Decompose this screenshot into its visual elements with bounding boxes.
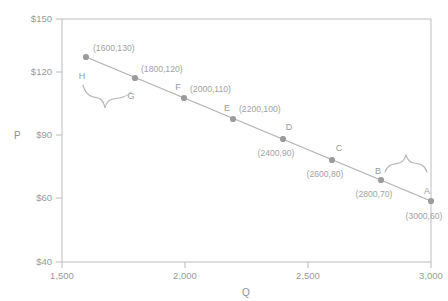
y-ticklabel-150: $150	[31, 13, 52, 24]
data-point-E[interactable]	[230, 116, 236, 122]
data-point-D[interactable]	[280, 136, 286, 142]
point-coord-D: (2400,90)	[258, 148, 295, 158]
scatter-chart: $150 $120 $90 $60 $40 1,500 2,000 2,500 …	[0, 0, 448, 301]
point-coord-E: (2200,100)	[239, 104, 281, 114]
y-ticklabel-60: $60	[36, 192, 52, 203]
point-coord-C: (2600,80)	[307, 169, 344, 179]
x-axis-title: Q	[242, 287, 250, 298]
data-point-G[interactable]	[132, 75, 138, 81]
point-label-B: B	[375, 166, 381, 176]
point-label-H: H	[79, 71, 86, 81]
data-point-H[interactable]	[83, 54, 89, 60]
x-ticklabel-3000: 3,000	[419, 270, 443, 281]
y-ticklabel-90: $90	[36, 129, 52, 140]
x-ticklabel-2500: 2,500	[296, 270, 320, 281]
data-point-A[interactable]	[428, 198, 434, 204]
point-coord-G: (1800,120)	[141, 64, 183, 74]
y-ticklabel-120: $120	[31, 66, 52, 77]
x-ticklabel-1500: 1,500	[50, 270, 74, 281]
point-coord-A: (3000,60)	[406, 211, 443, 221]
data-point-F[interactable]	[181, 95, 187, 101]
point-label-F: F	[175, 82, 181, 92]
point-label-A: A	[424, 186, 430, 196]
chart-container: $150 $120 $90 $60 $40 1,500 2,000 2,500 …	[0, 0, 448, 301]
brace-lower-right-icon	[385, 155, 427, 172]
data-point-B[interactable]	[378, 177, 384, 183]
point-label-E: E	[224, 103, 230, 113]
x-ticklabel-2000: 2,000	[173, 270, 197, 281]
point-coord-H: (1600,130)	[93, 43, 135, 53]
plot-frame	[62, 19, 431, 262]
y-ticklabel-40: $40	[36, 256, 52, 267]
point-coord-F: (2000,110)	[190, 84, 231, 94]
point-label-C: C	[336, 143, 343, 153]
brace-upper-left-icon	[83, 85, 131, 108]
data-point-C[interactable]	[329, 157, 335, 163]
point-coord-B: (2800,70)	[356, 189, 393, 199]
point-label-D: D	[286, 122, 293, 132]
y-axis-title: P	[14, 130, 21, 141]
